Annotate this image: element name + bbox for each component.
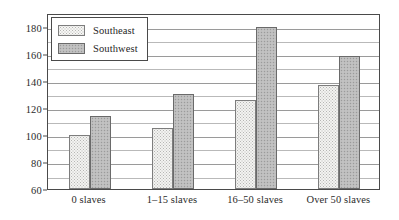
y-tick-label: 160 — [26, 49, 42, 60]
bar-group — [215, 15, 298, 189]
bar-chart: 6080100120140160180 0 slaves1–15 slaves1… — [0, 0, 399, 220]
y-tick-label: 80 — [31, 157, 42, 168]
x-tick-label: 16–50 slaves — [227, 194, 283, 205]
bar-southwest-2 — [256, 27, 277, 190]
y-axis: 6080100120140160180 — [0, 0, 47, 220]
legend-label-southeast: Southeast — [93, 25, 135, 36]
y-tick-label: 140 — [26, 76, 42, 87]
legend: Southeast Southwest — [51, 17, 148, 61]
legend-label-southwest: Southwest — [93, 43, 138, 54]
x-tick-label: Over 50 slaves — [306, 194, 370, 205]
bar-southeast-3 — [318, 85, 339, 189]
legend-item-southeast: Southeast — [58, 23, 138, 37]
x-axis: 0 slaves1–15 slaves16–50 slavesOver 50 s… — [0, 192, 399, 220]
x-tick-label: 1–15 slaves — [147, 194, 197, 205]
y-tick-label: 120 — [26, 103, 42, 114]
bar-southwest-1 — [173, 94, 194, 189]
legend-swatch-southeast — [58, 25, 85, 36]
bar-southwest-0 — [90, 116, 111, 189]
bar-southwest-3 — [339, 56, 360, 189]
x-tick-label: 0 slaves — [71, 194, 105, 205]
y-tick-label: 180 — [26, 22, 42, 33]
y-tick-label: 100 — [26, 130, 42, 141]
bar-southeast-0 — [69, 135, 90, 189]
bar-southeast-1 — [152, 128, 173, 189]
bar-group — [298, 15, 381, 189]
bar-southeast-2 — [235, 100, 256, 189]
legend-item-southwest: Southwest — [58, 41, 138, 55]
legend-swatch-southwest — [58, 43, 85, 54]
